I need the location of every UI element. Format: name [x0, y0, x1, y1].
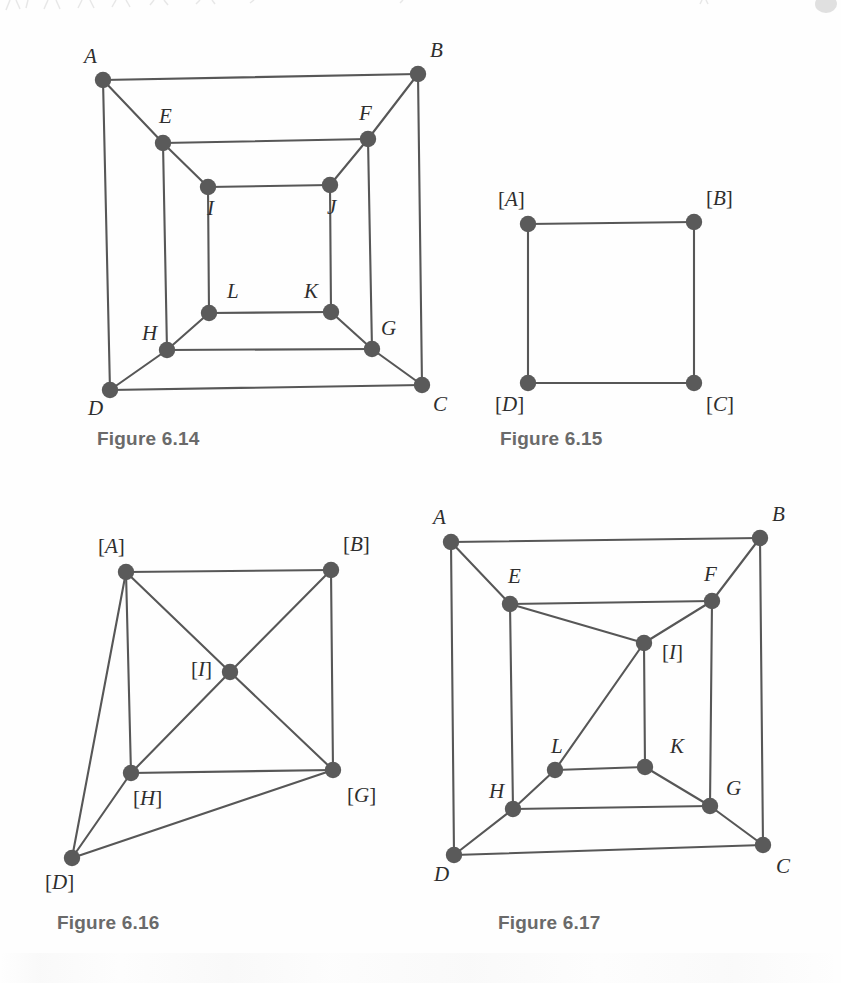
- figure-6-16-caption: Figure 6.16: [57, 912, 160, 934]
- graph-edge-H-L: [513, 770, 555, 809]
- graph-edge-I-K: [644, 643, 645, 767]
- graph-vertex-G: [702, 798, 718, 814]
- graph-vertex-F: [704, 593, 720, 609]
- graph-vertex-H: [505, 801, 521, 817]
- vertex-label-F: F: [703, 562, 717, 586]
- graph-edge-A-B: [451, 538, 760, 542]
- vertex-label-G: G: [726, 776, 741, 800]
- graph-vertex-A: [443, 534, 459, 550]
- graph-edge-A-E: [451, 542, 510, 604]
- figure-6-14-caption: Figure 6.14: [97, 428, 200, 450]
- vertex-label-H: H: [488, 779, 506, 803]
- graph-vertex-L: [547, 762, 563, 778]
- graph-edge-G-K: [645, 767, 710, 806]
- figure-6-17-caption: Figure 6.17: [498, 912, 601, 934]
- vertex-label-L: L: [550, 734, 563, 758]
- vertex-label-C: C: [776, 854, 791, 878]
- graph-vertex-B: [752, 530, 768, 546]
- graph-vertex-C: [755, 837, 771, 853]
- graph-edge-E-I: [510, 604, 644, 643]
- figure-6-17: ABCDEFGH[I]KL: [0, 0, 841, 983]
- figure-6-17-vertex-labels: ABCDEFGH[I]KL: [431, 502, 791, 886]
- graph-edge-B-C: [760, 538, 763, 845]
- graph-edge-D-H: [454, 809, 513, 855]
- graph-edge-K-L: [555, 767, 645, 770]
- graph-edge-H-E: [510, 604, 513, 809]
- vertex-label-D: D: [433, 862, 449, 886]
- graph-edge-B-F: [712, 538, 760, 601]
- vertex-label-B: B: [772, 502, 785, 526]
- graph-edge-F-I: [644, 601, 712, 643]
- vertex-label-A: A: [431, 505, 446, 529]
- graph-vertex-K: [637, 759, 653, 775]
- graph-vertex-D: [446, 847, 462, 863]
- figure-6-15-caption: Figure 6.15: [500, 428, 603, 450]
- graph-edge-D-A: [451, 542, 454, 855]
- graph-edge-G-H: [513, 806, 710, 809]
- graph-vertex-I: [636, 635, 652, 651]
- vertex-label-E: E: [507, 564, 521, 588]
- scanned-page: ABCDEFGHIJKL [A][B][C][D] [A][B][I][H][G…: [0, 0, 841, 983]
- graph-edge-E-F: [510, 601, 712, 604]
- vertex-label-K: K: [669, 734, 685, 758]
- graph-edge-F-G: [710, 601, 712, 806]
- graph-edge-C-G: [710, 806, 763, 845]
- graph-edge-C-D: [454, 845, 763, 855]
- graph-edge-I-L: [555, 643, 644, 770]
- vertex-label-I: [I]: [662, 640, 683, 664]
- graph-vertex-E: [502, 596, 518, 612]
